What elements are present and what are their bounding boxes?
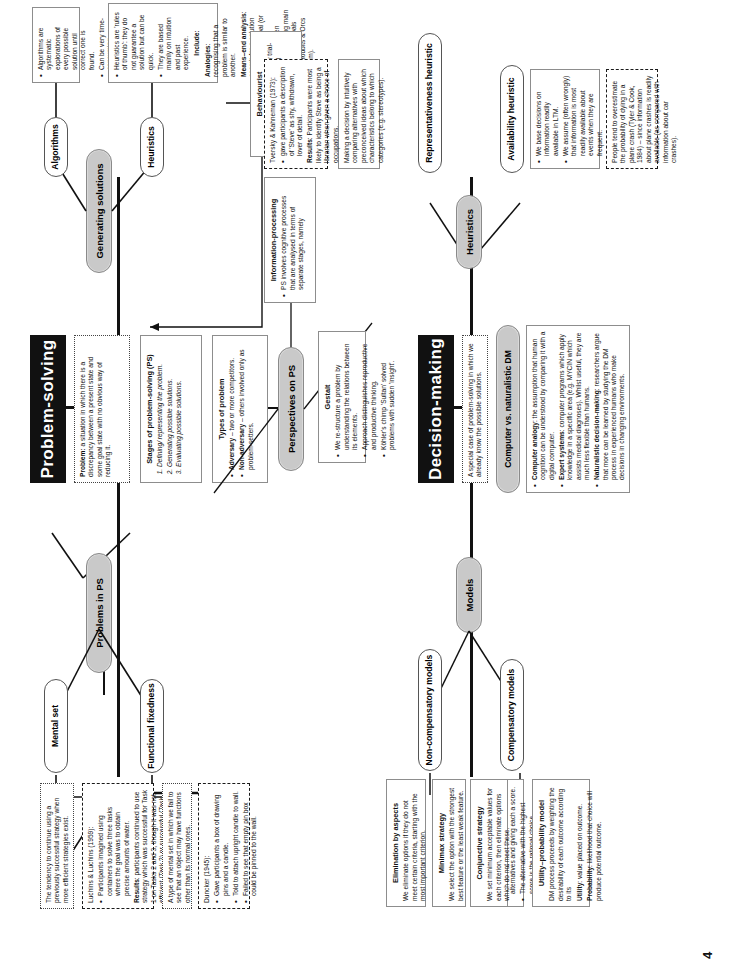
repr-citation: Tversky & Kahneman (1973): bbox=[269, 65, 277, 163]
ps-definition-lead: Problem: bbox=[79, 448, 86, 477]
repr-bullet: gave participants a description of 'Stev… bbox=[279, 65, 304, 163]
utility-probability-body: DM process proceeds by weighting the des… bbox=[548, 785, 573, 901]
heuristics-include-term: Means–end analysis bbox=[240, 13, 247, 77]
availability-study-box: People tend to overestimate the probabil… bbox=[606, 69, 658, 169]
algorithms-bullets: Algorithms are systematic explorations o… bbox=[37, 13, 114, 77]
ps-stage-item: Evaluating possible solutions. bbox=[175, 341, 183, 467]
heuristics-ps-box: Heuristics are 'rules of thumb': they do… bbox=[108, 3, 218, 83]
computer-item: Expert systems: computer programs which … bbox=[558, 331, 592, 487]
node-functional-fixedness[interactable]: Functional fixedness bbox=[140, 679, 164, 773]
ps-stages-list: Defining/ representing the problem. Gene… bbox=[156, 341, 183, 477]
utility-probability-heading: Utility–probability model bbox=[537, 785, 546, 901]
elimination-heading: Elimination by aspects bbox=[391, 785, 400, 901]
heuristics-ps-bullet: Heuristics are 'rules of thumb': they do… bbox=[113, 9, 155, 77]
availability-bullet: We base decisions on information readily… bbox=[535, 75, 560, 163]
information-processing-bullet: PS involves cognitive processes that are… bbox=[280, 183, 305, 297]
mental-set-results-term: Results bbox=[133, 879, 140, 903]
computer-items: Computer analogy: the assumption that hu… bbox=[531, 331, 627, 487]
dm-definition-box: A special case of problem-solving in whi… bbox=[462, 335, 488, 483]
branch-problems-in-ps[interactable]: Problems in PS bbox=[86, 553, 112, 673]
computer-vs-naturalistic-box: Computer analogy: the assumption that hu… bbox=[526, 325, 630, 493]
availability-bullet: We assume (often wrongly) that informati… bbox=[562, 75, 604, 163]
ps-definition-box: Problem: a situation in which there is a… bbox=[74, 335, 130, 483]
heuristics-ps-bullets: Heuristics are 'rules of thumb': they do… bbox=[113, 9, 190, 77]
ps-stages-heading: Stages of problem-solving (PS) bbox=[145, 341, 154, 477]
branch-computer-vs-naturalistic[interactable]: Computer vs. naturalistic DM bbox=[496, 325, 520, 493]
branch-heuristics-dm[interactable]: Heuristics bbox=[456, 195, 482, 269]
node-compensatory-models[interactable]: Compensatory models bbox=[500, 659, 524, 771]
heuristics-include-heading: Include: bbox=[193, 30, 200, 55]
ff-bullets: Gave participants a box of drawing pins … bbox=[213, 789, 258, 903]
ps-stages-box: Stages of problem-solving (PS) Defining/… bbox=[140, 335, 202, 483]
gestalt-box: Gestalt We re-structure a problem by und… bbox=[318, 331, 366, 463]
elimination-body: We eliminate options if they do not meet… bbox=[402, 785, 427, 901]
repr-bullets: gave participants a description of 'Stev… bbox=[279, 65, 304, 163]
computer-term: Computer analogy bbox=[531, 422, 538, 480]
repr-results-term: Results bbox=[306, 139, 313, 163]
information-processing-heading: Information-processing bbox=[269, 183, 278, 297]
representativeness-study-box: Tversky & Kahneman (1973): gave particip… bbox=[264, 59, 328, 169]
ps-types-heading: Types of problem bbox=[217, 341, 226, 477]
mental-set-bullet: Participants imagined using containers t… bbox=[97, 789, 131, 903]
mindmap-stage: 4 Problem-solving Problem: a situation i… bbox=[0, 0, 734, 963]
algorithms-box: Algorithms are systematic explorations o… bbox=[32, 7, 80, 83]
poster-frame: 4 Problem-solving Problem: a situation i… bbox=[0, 0, 734, 963]
section-title-problem-solving: Problem-solving bbox=[30, 335, 66, 483]
algorithms-bullet: Algorithms are systematic explorations o… bbox=[37, 13, 96, 77]
minimax-body: We select the option with the strongest … bbox=[448, 785, 465, 901]
node-representativeness-heuristic[interactable]: Representativeness heuristic bbox=[418, 33, 442, 173]
ps-type-item: Adversary – two or more competitors. bbox=[228, 341, 236, 477]
ps-stage-item: Defining/ representing the problem. bbox=[156, 341, 164, 467]
ps-type-text: – two or more competitors. bbox=[228, 358, 235, 438]
connector-title-to-perspectives bbox=[268, 407, 278, 409]
gestalt-bullet: We re-structure a problem by understandi… bbox=[334, 337, 359, 457]
computer-term: Naturalistic decision-making bbox=[593, 390, 600, 480]
representativeness-box: Making a decision by intuitively compari… bbox=[338, 59, 380, 169]
computer-item: Computer analogy: the assumption that hu… bbox=[531, 331, 556, 487]
probability-term: Probability bbox=[586, 867, 593, 901]
utility-term: Utility bbox=[576, 883, 583, 901]
minimax-heading: Minimax strategy bbox=[437, 785, 446, 901]
mental-set-citation: Luchins & Luchins (1959): bbox=[87, 789, 95, 903]
ps-types-list: Adversary – two or more competitors. Non… bbox=[228, 341, 255, 477]
branch-generating-solutions[interactable]: Generating solutions bbox=[86, 149, 112, 273]
node-heuristics-ps[interactable]: Heuristics bbox=[140, 117, 164, 177]
gestalt-bullet: Köhler's chimp 'Sultan' solved problems … bbox=[380, 337, 397, 457]
information-processing-box: Information-processing PS involves cogni… bbox=[264, 177, 316, 303]
mental-set-bullets: Participants imagined using containers t… bbox=[97, 789, 131, 903]
ff-bullet: Gave participants a box of drawing pins … bbox=[213, 789, 230, 903]
information-processing-bullets: PS involves cognitive processes that are… bbox=[280, 183, 305, 297]
gestalt-bullets: We re-structure a problem by understandi… bbox=[334, 337, 396, 457]
elimination-by-aspects-box: Elimination by aspects We eliminate opti… bbox=[386, 779, 426, 907]
functional-fixedness-body: A type of mental set in which we fail to… bbox=[167, 789, 192, 903]
representativeness-body: Making a decision by intuitively compari… bbox=[343, 65, 385, 163]
node-availability-heuristic[interactable]: Availability heuristic bbox=[500, 65, 524, 173]
heuristics-include-term: Analogies bbox=[204, 45, 211, 77]
ff-bullet: Told to attach upright candle to wall. bbox=[232, 789, 240, 903]
minimax-strategy-box: Minimax strategy We select the option wi… bbox=[432, 779, 466, 907]
node-algorithms[interactable]: Algorithms bbox=[44, 117, 68, 177]
branch-models[interactable]: Models bbox=[456, 557, 482, 633]
ps-type-term: Non-adversary bbox=[238, 424, 245, 470]
functional-fixedness-study-box: Duncker (1945): Gave participants a box … bbox=[198, 783, 250, 909]
utility-probability-box: Utility–probability model DM process pro… bbox=[532, 779, 590, 907]
conjunctive-heading: Conjunctive strategy bbox=[475, 785, 484, 901]
conjunctive-strategy-box: Conjunctive strategy We set minimum acce… bbox=[470, 779, 508, 907]
computer-item: Naturalistic decision-making: researcher… bbox=[593, 331, 627, 487]
branch-perspectives-on-ps[interactable]: Perspectives on PS bbox=[278, 347, 304, 471]
ps-type-item: Non-adversary – others involved only as … bbox=[238, 341, 255, 477]
availability-study-text: People tend to overestimate the probabil… bbox=[611, 75, 679, 163]
section-title-decision-making: Decision-making bbox=[418, 335, 454, 483]
ff-citation: Duncker (1945): bbox=[203, 789, 211, 903]
mental-set-study-box: Luchins & Luchins (1959): Participants i… bbox=[82, 783, 154, 909]
ps-types-box: Types of problem Adversary – two or more… bbox=[212, 335, 268, 483]
mental-set-body-box: The tendency to continue using a previou… bbox=[40, 783, 74, 909]
node-mental-set[interactable]: Mental set bbox=[44, 679, 68, 773]
heuristics-ps-bullet: They are based mainly on intuition and p… bbox=[157, 9, 191, 77]
node-non-compensatory-models[interactable]: Non-compensatory models bbox=[418, 649, 442, 771]
mental-set-body: The tendency to continue using a previou… bbox=[45, 789, 70, 903]
page-number: 4 bbox=[700, 952, 715, 959]
ff-bullet: Failed to see that empty pin box could b… bbox=[242, 789, 259, 903]
availability-heuristic-box: We base decisions on information readily… bbox=[530, 69, 600, 169]
functional-fixedness-body-box: A type of mental set in which we fail to… bbox=[162, 783, 192, 909]
